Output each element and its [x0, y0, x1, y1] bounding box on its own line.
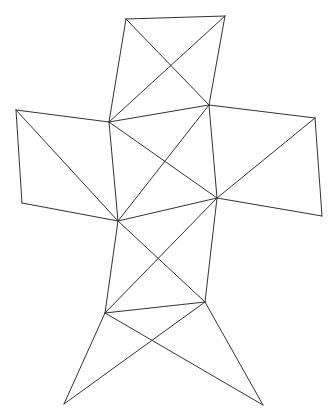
edge-JD [209, 105, 217, 198]
edge-JK [105, 198, 217, 313]
edge-DG [209, 105, 315, 118]
edge-HJ [217, 198, 322, 216]
edge-AB [126, 16, 225, 19]
edge-JL [205, 198, 217, 302]
edge-IK [105, 221, 118, 313]
edge-AD [126, 19, 209, 105]
edge-DC [109, 105, 209, 122]
edge-KL [105, 302, 205, 313]
edge-GJ [217, 118, 315, 198]
edge-DI [118, 105, 209, 221]
edge-LM [64, 302, 205, 404]
edge-GH [315, 118, 322, 216]
edge-KM [64, 313, 105, 404]
edge-LN [205, 302, 263, 405]
net-diagram [0, 0, 336, 415]
edge-BD [209, 16, 225, 105]
edge-CI [109, 122, 118, 221]
edge-IL [118, 221, 205, 302]
edge-CA [109, 19, 126, 122]
edge-FE [16, 110, 22, 203]
edge-CJ [109, 122, 217, 198]
edge-EC [16, 110, 109, 122]
edge-KN [105, 313, 263, 405]
